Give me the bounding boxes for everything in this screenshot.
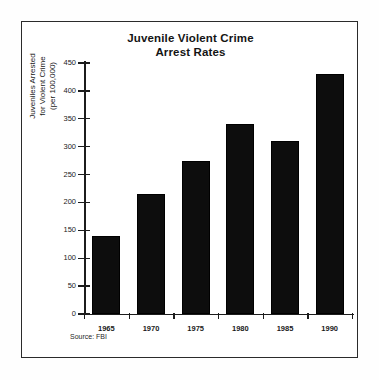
y-tick-mark <box>78 146 90 147</box>
x-tick-label: 1990 <box>321 324 338 333</box>
plot-area: 050100150200250300350400450 196519701975… <box>22 22 359 359</box>
y-tick-mark <box>78 90 90 91</box>
x-tick-label: 1970 <box>143 324 160 333</box>
chart-figure: Juvenile Violent Crime Arrest Rates 0501… <box>0 0 379 380</box>
bar-1970 <box>137 194 165 314</box>
bar-1975 <box>182 161 210 314</box>
chart-frame: Juvenile Violent Crime Arrest Rates 0501… <box>21 21 358 358</box>
y-tick-label: 100 <box>42 253 76 262</box>
bar-1990 <box>316 74 344 314</box>
x-tick-mark <box>218 313 219 319</box>
y-tick-mark <box>78 202 90 203</box>
y-tick-label: 200 <box>42 197 76 206</box>
source-note: Source: FBI <box>70 333 107 340</box>
x-tick-mark <box>173 313 174 319</box>
y-tick-label: 250 <box>42 170 76 179</box>
y-tick-label: 0 <box>42 309 76 318</box>
bar-1985 <box>271 141 299 314</box>
x-tick-label: 1980 <box>232 324 249 333</box>
bar-1965 <box>92 236 120 314</box>
y-tick-label: 150 <box>42 225 76 234</box>
x-tick-label: 1965 <box>98 324 115 333</box>
x-tick-mark <box>307 313 308 319</box>
x-tick-mark <box>263 313 264 319</box>
y-tick-label: 50 <box>42 281 76 290</box>
y-tick-mark <box>78 258 90 259</box>
bar-1980 <box>226 124 254 314</box>
x-tick-label: 1985 <box>277 324 294 333</box>
y-tick-mark <box>78 174 90 175</box>
x-tick-label: 1975 <box>187 324 204 333</box>
y-tick-mark <box>78 118 90 119</box>
y-axis-label-line-1: Juveniles Arrested <box>28 11 38 161</box>
y-tick-mark <box>78 62 90 63</box>
y-axis-label-line-2: for Violent Crime <box>38 11 48 161</box>
y-axis-label-line-3: (per 100,000) <box>48 11 58 161</box>
x-tick-mark <box>352 313 353 319</box>
y-tick-mark <box>78 285 90 286</box>
x-tick-mark <box>84 313 85 319</box>
y-axis-line <box>84 61 86 315</box>
y-tick-mark <box>78 230 90 231</box>
x-tick-mark <box>129 313 130 319</box>
y-axis-label: Juveniles Arrested for Violent Crime (pe… <box>28 11 58 161</box>
